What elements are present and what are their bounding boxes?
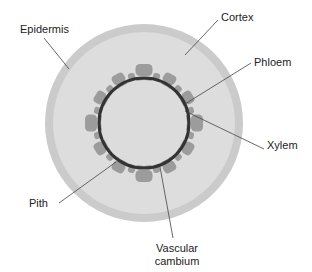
phloem-blob (136, 170, 153, 182)
phloem-blob (136, 64, 153, 76)
phloem-blob (85, 115, 97, 132)
stem-cross-section-diagram (0, 0, 312, 272)
vascular-cambium-label: Vascular cambium (152, 242, 202, 268)
xylem-label: Xylem (267, 139, 298, 152)
vascular-cambium-label-line1: Vascular (152, 242, 202, 255)
pith-region (101, 80, 187, 166)
phloem-label: Phloem (254, 56, 291, 69)
epidermis-leader-line (44, 38, 69, 69)
cortex-label: Cortex (221, 11, 253, 24)
vascular-cambium-label-line2: cambium (152, 255, 202, 268)
pith-label: Pith (29, 197, 48, 210)
epidermis-label: Epidermis (20, 23, 69, 36)
